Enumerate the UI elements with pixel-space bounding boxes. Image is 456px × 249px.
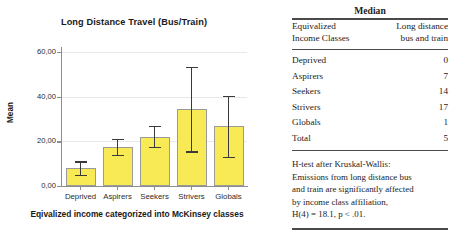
error-bar-aspirers bbox=[117, 139, 118, 155]
y-tick-label: 20,00 bbox=[16, 136, 56, 145]
table-row: Aspirers7 bbox=[292, 69, 448, 85]
error-bar-globals bbox=[228, 96, 229, 157]
error-cap-lower bbox=[112, 155, 124, 156]
footnote-line: H(4) = 18.1, p < .01. bbox=[292, 208, 450, 221]
x-axis-label: Eqivalized income categorized into McKin… bbox=[8, 209, 266, 219]
row-label: Globals bbox=[292, 115, 321, 131]
row-label: Seekers bbox=[292, 84, 321, 100]
y-tick-mark bbox=[57, 52, 61, 53]
table-row: Deprived0 bbox=[292, 53, 448, 69]
row-value: 1 bbox=[443, 115, 448, 131]
x-tick-label-globals: Globals bbox=[203, 192, 255, 201]
y-axis-line bbox=[61, 47, 62, 186]
y-tick-label: 0,00 bbox=[16, 181, 56, 190]
x-tick-mark bbox=[117, 186, 118, 190]
y-tick-label: 40,00 bbox=[16, 92, 56, 101]
chart-title: Long Distance Travel (Bus/Train) bbox=[0, 17, 268, 27]
error-bar-deprived bbox=[80, 161, 81, 174]
gridline bbox=[62, 97, 247, 98]
column-header-left-line1: Equivalized bbox=[292, 21, 336, 33]
table-row: Seekers14 bbox=[292, 84, 448, 100]
row-value: 7 bbox=[443, 69, 448, 85]
error-cap-upper bbox=[223, 96, 235, 97]
x-tick-mark bbox=[191, 186, 192, 190]
table-column-headers: Equivalized Long distance Income Classes… bbox=[292, 21, 448, 44]
error-cap-upper bbox=[186, 67, 198, 68]
footnote-line: and train are significantly affected bbox=[292, 183, 450, 196]
row-value: 0 bbox=[443, 53, 448, 69]
y-tick-mark bbox=[57, 141, 61, 142]
error-cap-lower bbox=[149, 147, 161, 148]
table-row: Globals1 bbox=[292, 115, 448, 131]
table-header-median: Median bbox=[292, 5, 448, 16]
table-footnote: H-test after Kruskal-Wallis:Emissions fr… bbox=[292, 158, 450, 221]
y-tick-mark bbox=[57, 97, 61, 98]
table-row: Total5 bbox=[292, 131, 448, 147]
y-tick-mark bbox=[57, 186, 61, 187]
row-label: Aspirers bbox=[292, 69, 323, 85]
gridline bbox=[62, 52, 247, 53]
error-bar-strivers bbox=[191, 67, 192, 152]
row-value: 5 bbox=[443, 131, 448, 147]
column-header-right-line2: bus and train bbox=[401, 33, 448, 45]
error-cap-lower bbox=[75, 175, 87, 176]
row-value: 17 bbox=[439, 100, 448, 116]
row-label: Strivers bbox=[292, 100, 321, 116]
y-tick-label: 60,00 bbox=[16, 47, 56, 56]
table-row: Strivers17 bbox=[292, 100, 448, 116]
row-value: 14 bbox=[439, 84, 448, 100]
error-cap-lower bbox=[223, 157, 235, 158]
column-header-left-line2: Income Classes bbox=[292, 33, 349, 45]
table-body: Deprived0Aspirers7Seekers14Strivers17Glo… bbox=[292, 53, 448, 147]
x-tick-mark bbox=[80, 186, 81, 190]
figure-root: Long Distance Travel (Bus/Train) Mean 0,… bbox=[0, 0, 456, 249]
footnote-line: Emissions from long distance bus bbox=[292, 171, 450, 184]
table-rule-bottom bbox=[292, 228, 448, 230]
median-table-panel: Median Equivalized Long distance Income … bbox=[292, 0, 456, 249]
footnote-line: H-test after Kruskal-Wallis: bbox=[292, 158, 450, 171]
column-header-right-line1: Long distance bbox=[396, 21, 448, 33]
row-label: Deprived bbox=[292, 53, 326, 69]
error-cap-upper bbox=[112, 139, 124, 140]
error-cap-lower bbox=[186, 151, 198, 152]
error-cap-upper bbox=[149, 126, 161, 127]
table-rule-body bbox=[292, 150, 448, 151]
table-rule-top bbox=[292, 18, 448, 20]
x-tick-mark bbox=[228, 186, 229, 190]
error-cap-upper bbox=[75, 161, 87, 162]
row-label: Total bbox=[292, 131, 311, 147]
footnote-line: by income class affiliation, bbox=[292, 196, 450, 209]
bar-chart-panel: Long Distance Travel (Bus/Train) Mean 0,… bbox=[0, 0, 268, 249]
table-rule-header bbox=[292, 49, 448, 50]
x-tick-mark bbox=[154, 186, 155, 190]
error-bar-seekers bbox=[154, 126, 155, 147]
